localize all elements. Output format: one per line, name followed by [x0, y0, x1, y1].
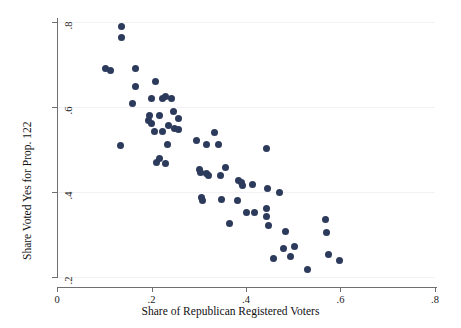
data-point — [132, 65, 139, 72]
data-point — [222, 164, 229, 171]
gridline-horizontal — [57, 107, 435, 108]
data-point — [249, 181, 256, 188]
data-point — [199, 197, 206, 204]
data-point — [132, 83, 139, 90]
x-axis-tick — [340, 287, 341, 292]
data-point — [118, 34, 125, 41]
data-point — [117, 142, 124, 149]
x-axis-tick — [57, 287, 58, 292]
x-axis-tick-label: .6 — [326, 294, 356, 305]
y-axis-tick-label: .6 — [63, 107, 74, 127]
x-axis-line — [57, 287, 437, 288]
data-point — [291, 243, 298, 250]
data-point — [148, 95, 155, 102]
data-point — [251, 209, 258, 216]
y-axis-tick — [52, 192, 57, 193]
data-point — [129, 100, 136, 107]
data-point — [243, 209, 250, 216]
data-point — [239, 182, 246, 189]
data-point — [175, 126, 182, 133]
data-point — [325, 251, 332, 258]
data-point — [282, 228, 289, 235]
data-point — [152, 78, 159, 85]
data-point — [287, 253, 294, 260]
data-point — [148, 120, 155, 127]
y-axis-title: Share Voted Yes for Prop. 122 — [21, 121, 33, 260]
data-point — [159, 128, 166, 135]
y-axis-tick-label: .4 — [63, 192, 74, 212]
data-point — [265, 222, 272, 229]
y-axis-tick — [52, 22, 57, 23]
x-axis-tick-label: .4 — [231, 294, 261, 305]
data-point — [276, 189, 283, 196]
data-point — [263, 145, 270, 152]
y-axis-tick — [52, 107, 57, 108]
data-point — [107, 67, 114, 74]
x-axis-tick — [246, 287, 247, 292]
data-point — [211, 129, 218, 136]
x-axis-tick-label: 0 — [42, 294, 72, 305]
x-axis-tick-label: .8 — [420, 294, 450, 305]
data-point — [217, 172, 224, 179]
data-point — [270, 255, 277, 262]
x-axis-tick — [152, 287, 153, 292]
gridline-horizontal — [57, 277, 435, 278]
data-point — [203, 141, 210, 148]
data-point — [323, 229, 330, 236]
data-point — [170, 108, 177, 115]
data-point — [205, 172, 212, 179]
data-point — [168, 95, 175, 102]
data-point — [164, 141, 171, 148]
data-point — [175, 115, 182, 122]
data-point — [151, 128, 158, 135]
x-axis-tick-label: .2 — [137, 294, 167, 305]
data-point — [263, 213, 270, 220]
data-point — [263, 205, 270, 212]
plot-area: .2.4.6.80.2.4.6.8 — [0, 0, 461, 328]
y-axis-tick-label: .8 — [63, 22, 74, 42]
data-point — [156, 112, 163, 119]
data-point — [280, 245, 287, 252]
scatter-plot-figure: .2.4.6.80.2.4.6.8 Share Voted Yes for Pr… — [0, 0, 461, 328]
gridline-horizontal — [57, 22, 435, 23]
data-point — [193, 137, 200, 144]
y-axis-line — [57, 18, 58, 278]
data-point — [162, 160, 169, 167]
data-point — [118, 23, 125, 30]
data-point — [218, 196, 225, 203]
x-axis-tick — [435, 287, 436, 292]
data-point — [234, 197, 241, 204]
x-axis-title: Share of Republican Registered Voters — [0, 305, 461, 317]
y-axis-tick — [52, 277, 57, 278]
data-point — [215, 141, 222, 148]
data-point — [336, 257, 343, 264]
gridline-horizontal — [57, 192, 435, 193]
data-point — [226, 220, 233, 227]
data-point — [304, 266, 311, 273]
data-point — [322, 216, 329, 223]
